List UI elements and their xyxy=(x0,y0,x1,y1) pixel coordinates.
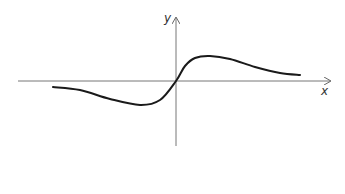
function-graph: x y xyxy=(0,0,345,194)
y-axis-label: y xyxy=(163,11,172,25)
x-axis-label: x xyxy=(320,84,329,98)
